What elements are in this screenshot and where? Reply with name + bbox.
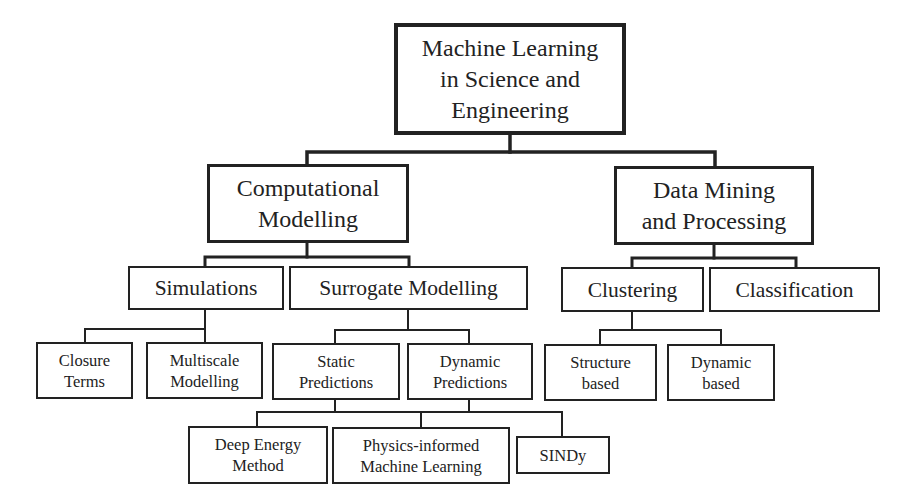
node-sindy: SINDy [516,436,610,474]
node-label: Data Mining and Processing [642,175,787,237]
node-dynamic-based: Dynamic based [667,344,775,401]
node-label: Dynamic Predictions [433,351,507,393]
node-simulations: Simulations [128,266,284,310]
node-deep-energy-method: Deep Energy Method [188,426,328,484]
node-label: Clustering [588,277,678,303]
node-label: Deep Energy Method [215,434,301,476]
node-data-mining: Data Mining and Processing [614,166,814,245]
ml-taxonomy-diagram: Machine Learning in Science and Engineer… [0,0,910,502]
node-label: SINDy [540,445,587,466]
connector-line [335,330,469,343]
node-label: Static Predictions [299,351,373,393]
node-label: Closure Terms [59,350,110,392]
node-label: Multiscale Modelling [170,350,240,392]
node-static-predictions: Static Predictions [272,343,400,400]
node-structure-based: Structure based [544,344,657,401]
node-piml: Physics-informed Machine Learning [332,427,510,484]
node-label: Machine Learning in Science and Engineer… [422,33,599,126]
node-label: Computational Modelling [237,173,380,235]
node-label: Simulations [155,275,258,301]
connector-line [205,257,409,266]
node-clustering: Clustering [561,267,704,312]
node-label: Dynamic based [691,352,751,394]
connector-line [632,258,796,267]
node-label: Structure based [570,352,630,394]
node-label: Physics-informed Machine Learning [360,435,481,477]
node-multiscale-modelling: Multiscale Modelling [146,342,263,399]
node-label: Surrogate Modelling [319,275,498,301]
connector-line [600,330,721,344]
node-closure-terms: Closure Terms [36,342,133,399]
node-surrogate-modelling: Surrogate Modelling [289,266,528,310]
node-label: Classification [735,277,853,303]
node-computational-modelling: Computational Modelling [207,164,409,243]
connector-line [85,329,205,342]
node-dynamic-predictions: Dynamic Predictions [407,343,533,400]
node-classification: Classification [709,267,880,312]
node-root: Machine Learning in Science and Engineer… [394,23,626,135]
